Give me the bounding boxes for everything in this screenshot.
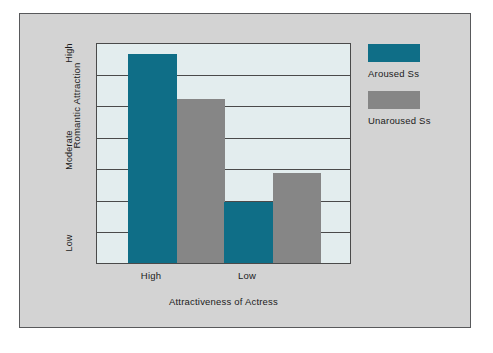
chart-legend: Aroused Ss Unaroused Ss: [368, 44, 468, 138]
y-tick-moderate: Moderate: [64, 121, 74, 179]
x-axis-title: Attractiveness of Actress: [96, 296, 351, 307]
y-tick-high: High: [64, 33, 74, 73]
bar-low-unaroused: [273, 173, 321, 263]
legend-swatch-unaroused: [368, 91, 420, 109]
plot-area: [96, 43, 351, 264]
bar-high-aroused: [128, 54, 177, 263]
x-tick-low: Low: [222, 270, 272, 281]
legend-swatch-aroused: [368, 44, 420, 62]
legend-label-aroused: Aroused Ss: [368, 68, 468, 79]
legend-label-unaroused: Unaroused Ss: [368, 115, 468, 126]
y-tick-low: Low: [64, 226, 74, 260]
x-tick-high: High: [126, 270, 176, 281]
bar-high-unaroused: [177, 99, 225, 263]
figure-panel: Romantic Attraction High Moderate Low Hi…: [19, 13, 471, 328]
bar-low-aroused: [224, 202, 273, 263]
